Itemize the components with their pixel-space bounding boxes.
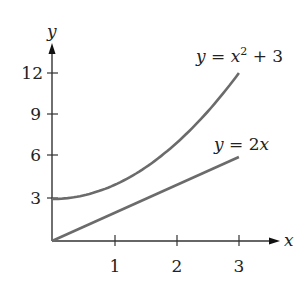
x-tick-label: 2 <box>172 256 183 276</box>
y-tick-label: 3 <box>30 188 41 208</box>
series-x-squared-plus-3 <box>52 73 239 199</box>
chart: y x 3 6 9 12 1 2 3 y = x2 + 3 y = 2x <box>0 0 301 296</box>
y-axis-arrow-icon <box>49 43 56 54</box>
y-tick-label: 6 <box>30 145 41 165</box>
y-axis-label: y <box>46 21 57 41</box>
x-axis-label: x <box>284 230 294 250</box>
x-tick-label: 1 <box>110 256 121 276</box>
series-label-x-squared-plus-3: y = x2 + 3 <box>195 45 283 66</box>
series-2x <box>52 157 239 241</box>
y-tick-label: 9 <box>30 104 41 124</box>
x-axis-arrow-icon <box>269 238 280 245</box>
x-tick-label: 3 <box>234 256 245 276</box>
y-tick-label: 12 <box>21 63 43 83</box>
series-label-2x: y = 2x <box>213 134 269 154</box>
